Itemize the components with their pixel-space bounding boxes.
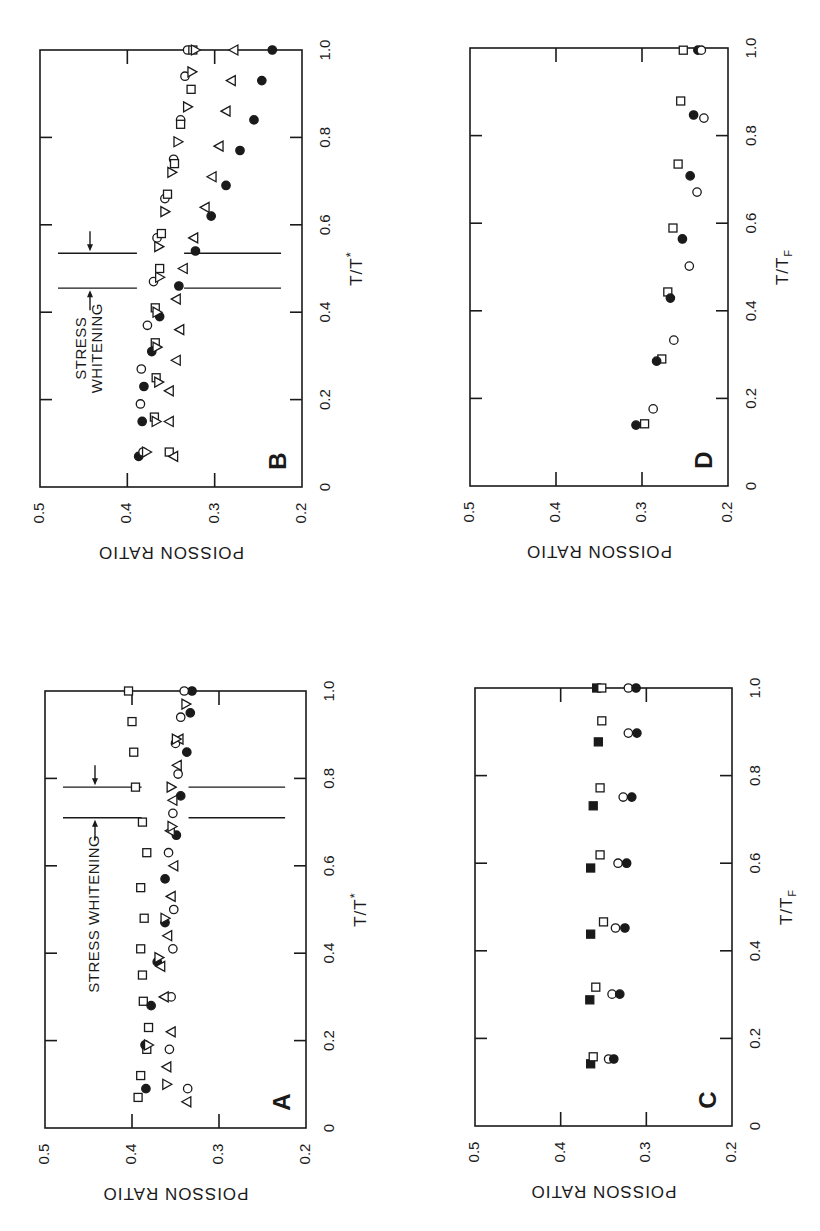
data-point <box>165 1045 173 1053</box>
data-point <box>136 400 144 408</box>
panel-c-chart: 00.20.40.60.81.00.50.40.30.2T/TFPOISSON … <box>465 678 798 1201</box>
x-tick-label: 0.8 <box>320 768 337 789</box>
data-point <box>157 230 165 238</box>
data-point <box>611 924 619 932</box>
data-point <box>166 1027 175 1037</box>
data-point <box>628 793 636 801</box>
x-tick-label: 0 <box>742 482 759 490</box>
data-point <box>178 264 187 274</box>
data-point <box>182 699 191 709</box>
data-point <box>184 102 193 112</box>
y-tick-label: 0.3 <box>636 1142 653 1163</box>
data-point <box>222 181 230 189</box>
data-point <box>177 792 185 800</box>
x-tick-label: 0.8 <box>746 765 763 786</box>
data-point <box>268 46 276 54</box>
data-point <box>169 809 177 817</box>
data-point <box>610 1055 618 1063</box>
stress-whitening-label: STRESS <box>72 317 89 380</box>
panel-label: D <box>690 451 717 468</box>
data-point <box>174 137 183 147</box>
data-point <box>164 416 173 426</box>
y-axis-title: POISSON RATIO <box>103 1184 249 1203</box>
x-axis-title: T/T* <box>347 892 370 927</box>
data-point <box>226 76 235 86</box>
x-tick-label: 0.4 <box>316 302 333 323</box>
x-tick-label: 1.0 <box>746 678 763 699</box>
data-point <box>693 188 701 196</box>
data-point <box>174 770 182 778</box>
data-point <box>236 146 244 154</box>
data-point <box>161 207 170 217</box>
y-axis-title: POISSON RATIO <box>98 543 244 562</box>
data-point <box>170 905 178 913</box>
data-point <box>624 729 632 737</box>
data-point <box>207 172 216 182</box>
data-point <box>700 114 708 122</box>
panel-label: B <box>264 452 291 469</box>
data-point <box>169 945 177 953</box>
data-point <box>596 851 604 859</box>
data-point <box>250 116 258 124</box>
data-point <box>586 996 594 1004</box>
data-point <box>652 357 660 365</box>
data-point <box>142 1084 150 1092</box>
data-point <box>156 265 164 273</box>
series-filled-squares <box>586 684 603 1068</box>
data-point <box>258 76 266 84</box>
x-tick-label: 0 <box>746 1122 763 1130</box>
data-point <box>200 202 209 212</box>
data-point <box>138 971 146 979</box>
x-tick-label: 0.2 <box>746 1028 763 1049</box>
y-tick-label: 0.5 <box>35 1144 52 1165</box>
data-point <box>641 420 649 428</box>
data-point <box>183 1084 191 1092</box>
data-point <box>674 160 682 168</box>
data-point <box>207 212 215 220</box>
data-point <box>130 748 138 756</box>
panel-b-chart: 00.20.40.60.81.00.50.40.30.2T/T*POISSON … <box>30 40 367 562</box>
y-tick-label: 0.2 <box>722 1142 739 1163</box>
data-point <box>598 717 606 725</box>
data-point <box>689 111 697 119</box>
x-tick-label: 0.6 <box>746 853 763 874</box>
x-tick-label: 1.0 <box>742 38 759 59</box>
data-point <box>128 718 136 726</box>
y-tick-label: 0.5 <box>30 503 47 524</box>
data-point <box>589 802 597 810</box>
data-point <box>686 172 694 180</box>
data-point <box>183 748 191 756</box>
data-point <box>162 1062 171 1072</box>
data-point <box>163 1079 172 1089</box>
data-point <box>161 875 169 883</box>
x-tick-label: 0.4 <box>742 300 759 321</box>
data-point <box>131 783 139 791</box>
data-point <box>147 1001 155 1009</box>
data-point <box>164 848 172 856</box>
data-point <box>587 864 595 872</box>
y-tick-label: 0.2 <box>292 503 309 524</box>
data-point <box>188 687 196 695</box>
y-tick-label: 0.4 <box>551 1142 568 1163</box>
data-point <box>616 990 624 998</box>
data-point <box>632 684 640 692</box>
data-point <box>697 46 705 54</box>
panel-a-chart: 00.20.40.60.81.00.50.40.30.2T/T*POISSON … <box>35 681 371 1203</box>
data-point <box>594 738 602 746</box>
data-point <box>677 97 685 105</box>
x-tick-label: 0.6 <box>316 214 333 235</box>
y-axis-title: POISSON RATIO <box>531 1182 677 1201</box>
data-point <box>137 1072 145 1080</box>
data-point <box>666 294 674 302</box>
y-tick-label: 0.4 <box>546 502 563 523</box>
data-point <box>167 782 176 792</box>
data-point <box>191 247 199 255</box>
y-tick-label: 0.2 <box>718 502 735 523</box>
x-tick-label: 1.0 <box>320 681 337 702</box>
y-tick-label: 0.2 <box>296 1144 313 1165</box>
x-axis-title: T/TF <box>773 249 793 285</box>
y-tick-label: 0.4 <box>117 503 134 524</box>
x-tick-label: 0.6 <box>742 213 759 234</box>
data-point <box>622 859 630 867</box>
x-tick-label: 0.2 <box>316 389 333 410</box>
